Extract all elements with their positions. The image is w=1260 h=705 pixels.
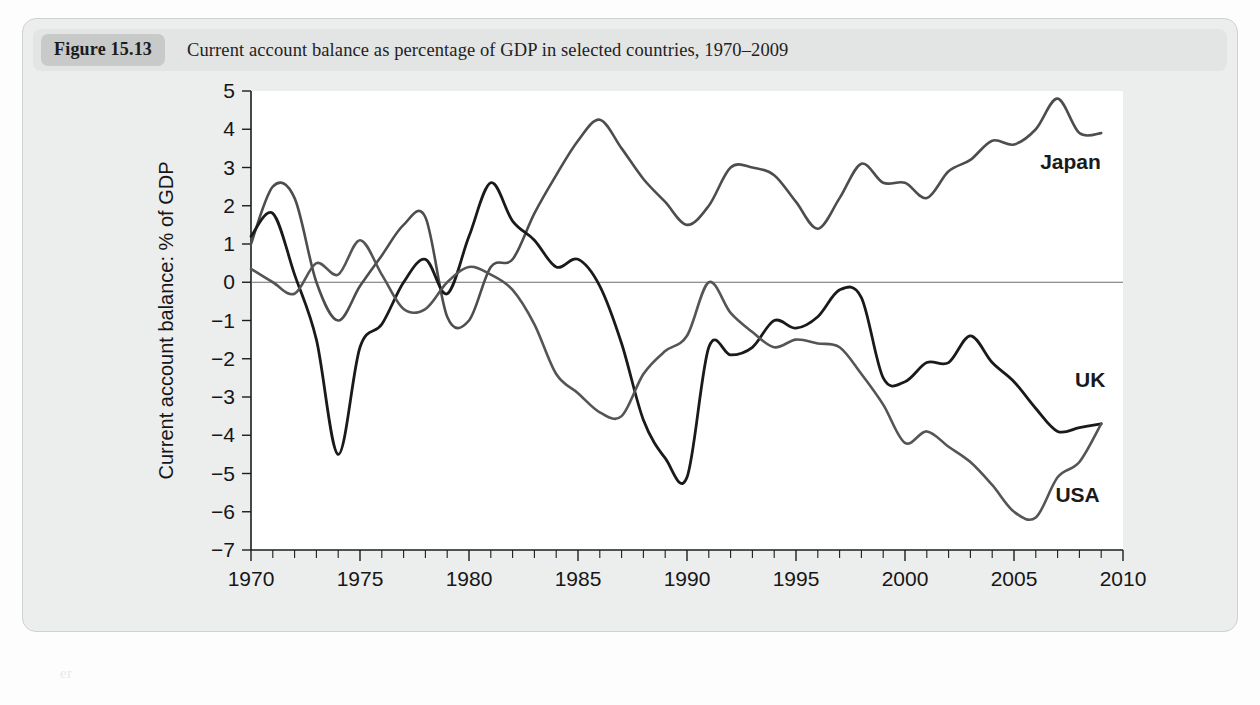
figure-caption-bar: Figure 15.13 Current account balance as … (33, 29, 1227, 71)
series-label-japan: Japan (1040, 150, 1101, 173)
x-axis-tick-label: 2005 (991, 567, 1038, 590)
y-axis-tick-label: 3 (223, 156, 235, 179)
series-label-uk: UK (1075, 368, 1105, 391)
series-label-usa: USA (1055, 483, 1099, 506)
x-axis-tick-label: 1980 (446, 567, 493, 590)
y-axis-tick-label: −7 (211, 538, 235, 561)
figure-caption-text: Current account balance as percentage of… (187, 40, 788, 61)
y-axis-tick-label: 5 (223, 79, 235, 102)
x-axis-tick-label: 1985 (555, 567, 602, 590)
y-axis-tick-label: −6 (211, 500, 235, 523)
ghost-text-line-3: er (60, 665, 72, 682)
y-axis-tick-label: −1 (211, 309, 235, 332)
x-axis-tick-label: 1975 (337, 567, 384, 590)
y-axis-tick-label: −4 (211, 423, 235, 446)
x-axis-tick-label: 1970 (228, 567, 275, 590)
x-axis-tick-label: 1990 (664, 567, 711, 590)
x-axis-tick-label: 2010 (1100, 567, 1147, 590)
y-axis-tick-label: −2 (211, 347, 235, 370)
y-axis-tick-label: 1 (223, 232, 235, 255)
y-axis-tick-label: −5 (211, 462, 235, 485)
y-axis-title: Current account balance: % of GDP (155, 162, 177, 480)
x-axis-tick-label: 1995 (773, 567, 820, 590)
chart-area: 543210−1−2−3−4−5−6−719701975198019851990… (33, 79, 1229, 622)
plot-background (251, 91, 1123, 550)
x-axis-tick-label: 2000 (882, 567, 929, 590)
figure-panel: Figure 15.13 Current account balance as … (22, 18, 1238, 632)
y-axis-tick-label: 4 (223, 117, 235, 140)
line-chart: 543210−1−2−3−4−5−6−719701975198019851990… (33, 79, 1229, 622)
y-axis-tick-label: 0 (223, 270, 235, 293)
y-axis-tick-label: 2 (223, 194, 235, 217)
y-axis-tick-label: −3 (211, 385, 235, 408)
figure-number-badge: Figure 15.13 (41, 34, 165, 66)
